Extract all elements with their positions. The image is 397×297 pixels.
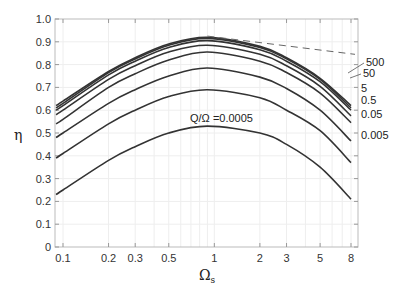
- y-axis-label: η: [14, 127, 22, 143]
- x-tick-label: 0.1: [55, 252, 70, 264]
- x-tick-label: 8: [348, 252, 354, 264]
- y-tick-label: 0.3: [36, 173, 51, 185]
- dashed-envelope-line: [207, 36, 355, 54]
- y-tick-label: 0.2: [36, 195, 51, 207]
- x-axis-label: Ωs: [199, 267, 216, 285]
- annotation-label: Q/Ω =0.0005: [190, 112, 253, 124]
- x-tick-label: 5: [317, 252, 323, 264]
- x-tick-label: 1: [211, 252, 217, 264]
- y-tick-label: 0.4: [36, 150, 51, 162]
- y-tick-label: 1.0: [36, 13, 51, 25]
- curve-500: [56, 37, 351, 105]
- x-axis-ticks: 0.10.20.30.512358: [55, 19, 354, 264]
- x-tick-label: 3: [283, 252, 289, 264]
- y-tick-label: 0.6: [36, 104, 51, 116]
- y-tick-label: 0.1: [36, 218, 51, 230]
- series-labels: 5005050.50.050.005: [348, 56, 389, 141]
- y-tick-label: 0.9: [36, 36, 51, 48]
- curve-lowest: [56, 126, 351, 199]
- x-tick-label: 2: [257, 252, 263, 264]
- curve-0.005: [56, 68, 351, 141]
- y-tick-label: 0.5: [36, 127, 51, 139]
- x-tick-label: 0.2: [101, 252, 116, 264]
- series-label: 0.005: [361, 129, 389, 141]
- x-tick-label: 0.5: [161, 252, 176, 264]
- series-label: 50: [363, 67, 375, 79]
- grid: [55, 19, 358, 247]
- series-label: 0.5: [361, 94, 376, 106]
- y-tick-label: 0: [45, 241, 51, 253]
- efficiency-chart: 0.10.20.30.512358 00.10.20.30.40.50.60.7…: [0, 0, 397, 297]
- series-label: 5: [361, 82, 367, 94]
- y-tick-label: 0.8: [36, 59, 51, 71]
- series-label: 0.05: [361, 108, 382, 120]
- x-tick-label: 0.3: [128, 252, 143, 264]
- y-tick-label: 0.7: [36, 81, 51, 93]
